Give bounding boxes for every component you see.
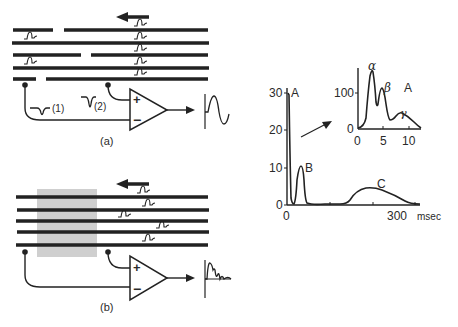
electrode-2 xyxy=(105,249,130,268)
action-potential-icon xyxy=(137,186,150,193)
electrode-1 xyxy=(22,82,130,120)
inset-chart: 100 0 0 5 10 α β γ A xyxy=(334,59,421,148)
x-axis-unit: msec xyxy=(417,211,441,222)
y-tick-0: 0 xyxy=(276,198,283,212)
figure-canvas: (1) (2) + − (a) xyxy=(0,0,458,327)
electrode-2 xyxy=(105,82,130,100)
inset-x-tick-10: 10 xyxy=(402,134,416,148)
panel-a: (1) (2) + − (a) xyxy=(12,12,229,147)
y-ticks: 30 20 10 0 xyxy=(269,86,287,212)
peak-label-b: B xyxy=(305,161,313,175)
direction-arrow-icon xyxy=(116,12,149,22)
y-tick-20: 20 xyxy=(269,123,283,137)
peak-label-gamma: γ xyxy=(400,107,407,120)
inset-x-tick-0: 0 xyxy=(354,134,361,148)
x-tick-0: 0 xyxy=(283,209,290,223)
action-potential-icon xyxy=(134,57,147,64)
inset-title: A xyxy=(404,81,412,95)
inset-trace xyxy=(358,71,421,128)
action-potential-icon xyxy=(134,32,147,39)
action-potential-icon xyxy=(142,234,155,241)
differential-amplifier: + − xyxy=(130,89,195,130)
zoom-arrow-icon xyxy=(301,121,332,137)
output-trace-biphasic xyxy=(205,94,229,129)
peak-label-alpha: α xyxy=(368,59,376,73)
action-potential-icon xyxy=(24,57,37,64)
peak-label-a: A xyxy=(291,86,299,100)
differential-amplifier: + − xyxy=(130,256,195,300)
action-potential-icon xyxy=(142,199,155,206)
peak-label-c: C xyxy=(377,177,386,191)
plus-sign: + xyxy=(133,260,141,275)
panel-a-label: (a) xyxy=(100,135,113,147)
x-tick-300: 300 xyxy=(387,209,407,223)
panel-b: + − (b) xyxy=(16,179,231,313)
output-trace-compound xyxy=(205,260,231,298)
panel-b-label: (b) xyxy=(100,301,113,313)
input-label-1: (1) xyxy=(52,103,64,114)
inset-y-tick-100: 100 xyxy=(334,86,354,100)
inset-y-tick-0: 0 xyxy=(347,122,354,136)
nerve-fibers xyxy=(12,19,209,79)
inset-x-tick-5: 5 xyxy=(380,134,387,148)
action-potential-icon xyxy=(134,44,147,51)
plus-sign: + xyxy=(133,92,141,107)
action-potential-icon xyxy=(24,32,37,39)
y-tick-10: 10 xyxy=(269,161,283,175)
main-chart: 30 20 10 0 0 300 msec A B C xyxy=(269,86,441,223)
waveform-1-icon xyxy=(30,108,50,115)
minus-sign: − xyxy=(133,281,141,297)
action-potential-icon xyxy=(134,19,147,26)
minus-sign: − xyxy=(133,112,141,128)
input-label-2: (2) xyxy=(94,101,106,112)
y-tick-30: 30 xyxy=(269,86,283,100)
peak-label-beta: β xyxy=(383,81,391,95)
